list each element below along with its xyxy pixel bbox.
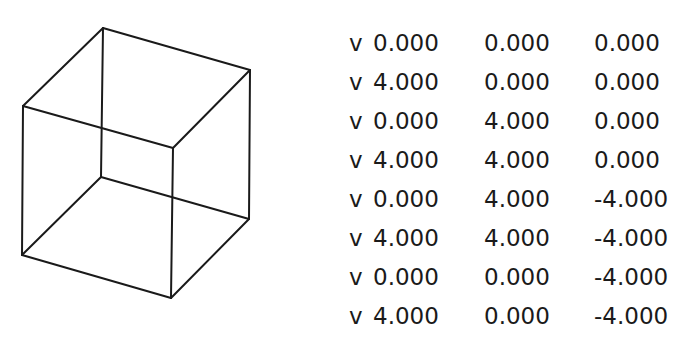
vertex-y: 0.000 <box>484 301 550 331</box>
vertex-row: v 0.000 0.000 0.000 <box>349 28 689 67</box>
vertex-x: 0.000 <box>373 184 439 214</box>
cube-edge <box>22 177 101 255</box>
vertex-x: 4.000 <box>373 301 439 331</box>
vertex-prefix: v <box>349 28 363 58</box>
vertex-row: v 0.000 0.000 -4.000 <box>349 262 689 301</box>
vertex-y: 4.000 <box>484 106 550 136</box>
vertex-y: 0.000 <box>484 28 550 58</box>
vertex-z: -4.000 <box>594 262 668 292</box>
vertex-x: 4.000 <box>373 67 439 97</box>
cube-edge <box>101 28 103 177</box>
cube-edge <box>173 70 250 148</box>
vertex-prefix: v <box>349 145 363 175</box>
vertex-prefix: v <box>349 184 363 214</box>
vertex-prefix: v <box>349 223 363 253</box>
cube-edge <box>22 255 171 298</box>
cube-edge <box>101 177 249 219</box>
vertex-row: v 4.000 4.000 -4.000 <box>349 223 689 262</box>
vertex-row: v 4.000 0.000 0.000 <box>349 67 689 106</box>
vertex-y: 0.000 <box>484 67 550 97</box>
vertex-y: 0.000 <box>484 262 550 292</box>
vertex-z: 0.000 <box>594 67 660 97</box>
vertex-x: 0.000 <box>373 28 439 58</box>
cube-edge <box>22 106 23 255</box>
vertex-row: v 4.000 0.000 -4.000 <box>349 301 689 340</box>
cube-edge <box>171 219 249 298</box>
vertex-z: 0.000 <box>594 28 660 58</box>
vertex-x: 4.000 <box>373 223 439 253</box>
vertex-prefix: v <box>349 262 363 292</box>
cube-edge <box>23 106 173 148</box>
vertex-x: 0.000 <box>373 106 439 136</box>
vertex-row: v 0.000 4.000 -4.000 <box>349 184 689 223</box>
vertex-prefix: v <box>349 106 363 136</box>
cube-edge <box>249 70 250 219</box>
cube-edge <box>23 28 103 106</box>
vertex-row: v 4.000 4.000 0.000 <box>349 145 689 184</box>
vertex-prefix: v <box>349 67 363 97</box>
vertex-prefix: v <box>349 301 363 331</box>
vertex-x: 4.000 <box>373 145 439 175</box>
vertex-y: 4.000 <box>484 145 550 175</box>
vertex-x: 0.000 <box>373 262 439 292</box>
vertex-z: -4.000 <box>594 184 668 214</box>
vertex-y: 4.000 <box>484 223 550 253</box>
vertex-z: -4.000 <box>594 301 668 331</box>
vertex-z: -4.000 <box>594 223 668 253</box>
vertex-list: v 0.000 0.000 0.000 v 4.000 0.000 0.000 … <box>349 28 689 340</box>
wireframe-cube <box>0 0 270 349</box>
vertex-y: 4.000 <box>484 184 550 214</box>
vertex-z: 0.000 <box>594 145 660 175</box>
vertex-z: 0.000 <box>594 106 660 136</box>
vertex-row: v 0.000 4.000 0.000 <box>349 106 689 145</box>
cube-edge <box>171 148 173 298</box>
cube-edge <box>103 28 250 70</box>
